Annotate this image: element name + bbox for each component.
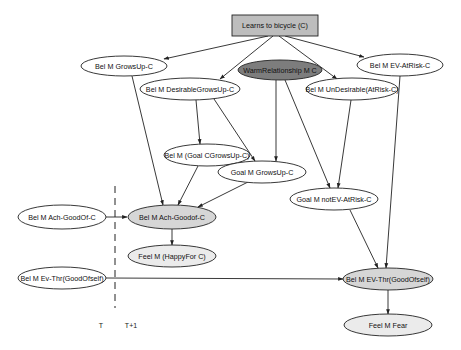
node-label: Learns to bicycle (C) xyxy=(242,21,308,30)
node-bel-growsup[interactable]: Bel M GrowsUp-C xyxy=(81,56,167,76)
edge-bel-ev-atrisk-to-bel-evthr xyxy=(386,76,400,268)
node-warm-relationship[interactable]: WarmRelationship M C xyxy=(238,60,322,80)
edge-bel-evthr-prev-to-bel-evthr xyxy=(106,278,343,279)
node-bel-ev-atrisk[interactable]: Bel M EV-AtRisk-C xyxy=(357,54,443,76)
node-label: Bel M Ach-Goodof-C xyxy=(139,213,205,222)
edge-goal-growsup-to-bel-ach xyxy=(198,182,248,207)
node-bel-desirable-growsup[interactable]: Bel M DesirableGrowsUp-C xyxy=(140,78,240,100)
time-label-t: T xyxy=(99,322,104,329)
causal-graph: Learns to bicycle (C) Bel M GrowsUp-C Wa… xyxy=(0,0,461,350)
node-label: Feel M (HappyFor C) xyxy=(138,252,206,261)
node-learns-to-bicycle[interactable]: Learns to bicycle (C) xyxy=(232,15,318,36)
node-label: Bel M Ev-Thr(GoodOfself) xyxy=(20,274,103,283)
node-feel-fear[interactable]: Feel M Fear xyxy=(344,314,432,336)
edge-learns-to-bel-growsup xyxy=(164,36,268,59)
node-label: Bel M Ach-GoodOf-C xyxy=(28,213,96,222)
edge-bel-goal-c-to-bel-ach xyxy=(178,166,198,205)
node-bel-evthr[interactable]: Bel M EV-Thr(GoodOfself) xyxy=(343,268,433,290)
node-goal-notev-atrisk[interactable]: Goal M notEV-AtRisk-C xyxy=(290,188,378,210)
node-label: Bel M GrowsUp-C xyxy=(95,62,153,71)
node-bel-ach-goodof-prev[interactable]: Bel M Ach-GoodOf-C xyxy=(18,205,106,229)
node-label: Goal M GrowsUp-C xyxy=(231,168,294,177)
node-bel-evthr-prev[interactable]: Bel M Ev-Thr(GoodOfself) xyxy=(18,267,106,289)
node-goal-growsup[interactable]: Goal M GrowsUp-C xyxy=(218,161,306,183)
node-label: Feel M Fear xyxy=(369,321,408,330)
node-bel-ach-goodof[interactable]: Bel M Ach-Goodof-C xyxy=(128,205,216,229)
node-label: WarmRelationship M C xyxy=(243,66,317,75)
node-feel-happyfor[interactable]: Feel M (HappyFor C) xyxy=(128,245,216,267)
edge-goal-notev-to-bel-evthr xyxy=(350,210,378,268)
edge-bel-desirable-to-bel-goal-c xyxy=(196,100,200,144)
edge-bel-undesirable-to-goal-notev xyxy=(338,100,351,188)
node-label: Bel M DesirableGrowsUp-C xyxy=(146,85,234,94)
edge-learns-to-bel-ev-atrisk xyxy=(285,36,364,57)
node-label: Bel M EV-AtRisk-C xyxy=(370,61,430,70)
time-label-t-plus-1: T+1 xyxy=(125,322,137,329)
node-bel-undesirable-atrisk[interactable]: Bel M UnDesirable(AtRisk-C) xyxy=(305,78,398,100)
node-label: Bel M (Goal CGrowsUp-C) xyxy=(164,151,249,160)
node-label: Goal M notEV-AtRisk-C xyxy=(296,195,371,204)
node-label: Bel M UnDesirable(AtRisk-C) xyxy=(305,85,398,94)
diagram-canvas: Learns to bicycle (C) Bel M GrowsUp-C Wa… xyxy=(0,0,461,350)
node-label: Bel M EV-Thr(GoodOfself) xyxy=(346,275,430,284)
